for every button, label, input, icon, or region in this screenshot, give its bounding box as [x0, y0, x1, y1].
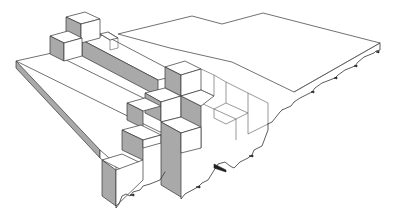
central-cube-cluster — [102, 61, 268, 206]
isometric-platform-drawing — [0, 0, 396, 219]
